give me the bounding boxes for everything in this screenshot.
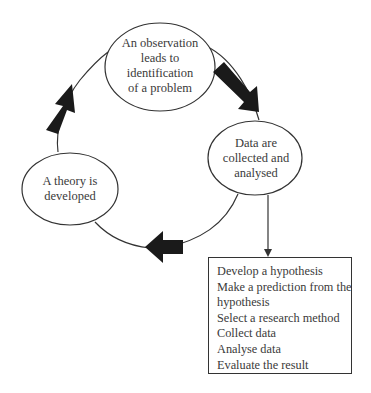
arrowhead-down-icon [264,249,272,257]
label-line: An observation [108,36,212,51]
step-item: Select a research method [217,311,351,327]
block-arrow-up-icon [46,84,75,134]
step-item: hypothesis [217,295,351,311]
steps-box: Develop a hypothesis Make a prediction f… [208,257,352,374]
step-item: Develop a hypothesis [217,264,351,280]
label-line: identification [108,66,212,81]
block-arrow-left-icon [145,231,183,263]
block-arrow-down-right-icon [213,62,259,112]
label-line: of a problem [108,81,212,96]
label-data: Data are collected and analysed [210,136,302,181]
label-line: analysed [210,166,302,181]
connector-data-to-theory [165,194,238,248]
label-theory: A theory is developed [24,174,116,204]
step-item: Evaluate the result [217,358,351,374]
label-line: leads to [108,51,212,66]
label-line: developed [24,189,116,204]
connector-theory-to-bottom [95,222,150,248]
step-item: Make a prediction from the [217,280,351,296]
label-line: Data are [210,136,302,151]
step-item: Collect data [217,326,351,342]
label-observation: An observation leads to identification o… [108,36,212,96]
label-line: A theory is [24,174,116,189]
step-item: Analyse data [217,342,351,358]
label-line: collected and [210,151,302,166]
